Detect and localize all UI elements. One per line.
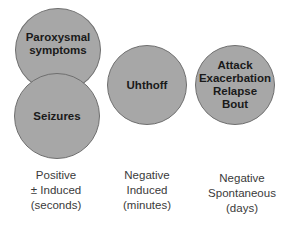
positive-induced-label: Positive ± Induced (seconds) xyxy=(16,168,96,213)
seizures-circle: Seizures xyxy=(14,73,100,159)
negative-induced-label: Negative Induced (minutes) xyxy=(107,168,187,213)
negative-spontaneous-label: Negative Spontaneous (days) xyxy=(197,171,287,216)
paroxysmal-symptoms-text: Paroxysmal symptoms xyxy=(26,31,91,57)
attack-text: Attack Exacerbation Relapse Bout xyxy=(199,59,271,111)
uhthoff-text: Uhthoff xyxy=(127,79,168,92)
seizures-text: Seizures xyxy=(33,110,80,123)
attack-circle: Attack Exacerbation Relapse Bout xyxy=(195,45,275,125)
uhthoff-circle: Uhthoff xyxy=(107,45,187,125)
